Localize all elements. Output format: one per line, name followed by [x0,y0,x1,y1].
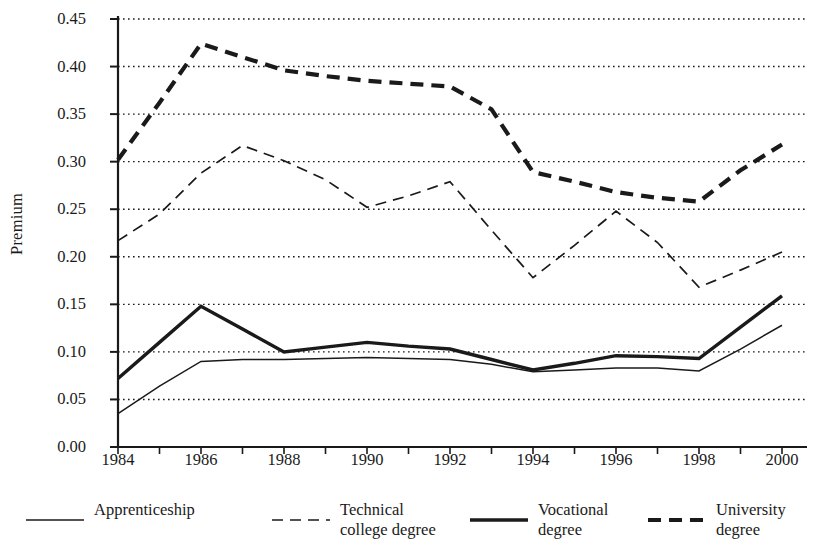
chart-legend: ApprenticeshipTechnicalcollege degreeVoc… [0,500,813,556]
x-axis-tick-label: 1984 [88,452,148,469]
legend-label: Vocationaldegree [538,500,608,540]
series-line-vocational-degree [118,296,782,379]
legend-label-line1: Vocational [538,500,608,520]
legend-swatch-icon [470,509,528,515]
premium-line-chart: Premium 0.450.400.350.300.250.200.150.10… [0,0,813,556]
x-axis-tick-label: 1992 [420,452,480,469]
legend-label: Technicalcollege degree [340,500,436,540]
series-line-technical-college-degree [118,146,782,288]
legend-label: Universitydegree [716,500,786,540]
legend-swatch-icon [272,509,330,515]
x-axis-tick-label: 1998 [669,452,729,469]
series-line-apprenticeship [118,325,782,413]
legend-label-line1: Apprenticeship [94,500,195,520]
legend-swatch-icon [26,509,84,515]
legend-label-line1: Technical [340,500,436,520]
x-axis-tick-label: 1996 [586,452,646,469]
legend-label-line2: degree [716,520,786,540]
legend-swatch-icon [648,509,706,515]
legend-label-line2: degree [538,520,608,540]
x-axis-tick-label: 1988 [254,452,314,469]
legend-label-line1: University [716,500,786,520]
series-line-university-degree [118,44,782,202]
legend-label: Apprenticeship [94,500,195,520]
x-axis-tick-label: 2000 [752,452,812,469]
plot-area [0,0,813,500]
legend-label-line2: college degree [340,520,436,540]
x-axis-tick-label: 1994 [503,452,563,469]
x-axis-tick-label: 1990 [337,452,397,469]
x-axis-tick-label: 1986 [171,452,231,469]
